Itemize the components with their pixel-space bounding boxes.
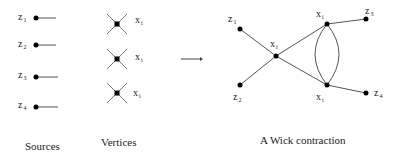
source-label-z1: z1 [18, 12, 26, 25]
wick-label-z4: z4 [374, 88, 382, 101]
wick-label-x-top: xi [316, 9, 324, 22]
vertex-label-1: xi [135, 15, 143, 28]
wick-label-z1: z1 [228, 14, 236, 27]
source-label-z2: z2 [18, 39, 26, 52]
caption-sources: Sources [25, 140, 60, 152]
arrow-icon [181, 57, 203, 61]
source-legs [34, 16, 59, 110]
caption-vertices: Vertices [101, 136, 136, 148]
wick-nodes [238, 17, 369, 96]
source-label-z4: z4 [18, 100, 26, 113]
wick-label-x-bottom: xi [316, 92, 324, 105]
wick-label-z3: z3 [365, 6, 373, 19]
wick-label-z2: z2 [233, 92, 241, 105]
wick-graph [240, 19, 366, 93]
vertex-crosses [107, 14, 127, 103]
wick-label-x-center: xi [270, 39, 278, 52]
vertex-label-3: xi [133, 88, 141, 101]
caption-wick-contraction: A Wick contraction [260, 134, 346, 146]
source-label-z3: z3 [18, 70, 26, 83]
vertex-label-2: xi [135, 52, 143, 65]
